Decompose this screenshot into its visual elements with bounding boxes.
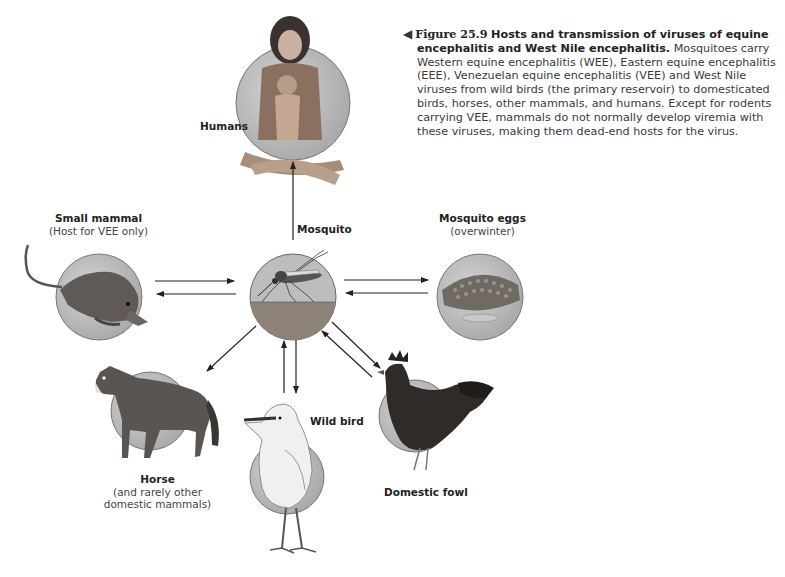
figure-body: Mosquitoes carry Western equine encephal… [417, 42, 776, 138]
humans-illustration [236, 16, 350, 185]
horse-illustration [95, 366, 219, 458]
figure-number: Figure 25.9 [415, 27, 487, 41]
label-small-mammal: Small mammal (Host for VEE only) [36, 212, 161, 237]
label-horse: Horse (and rarely other domestic mammals… [100, 473, 215, 511]
label-wild-bird: Wild bird [310, 415, 364, 428]
arrow-fowl-to-mosquito [322, 331, 372, 377]
arrow-mosquito-to-horse [207, 326, 256, 371]
domestic-fowl-illustration [377, 350, 494, 470]
small-mammal-illustration [26, 245, 148, 340]
figure-caption: ◀Figure 25.9 Hosts and transmission of v… [417, 28, 782, 138]
mosquito-illustration [248, 250, 338, 347]
label-humans: Humans [200, 120, 248, 133]
label-domestic-fowl: Domestic fowl [384, 486, 468, 499]
label-mosquito: Mosquito [297, 223, 352, 236]
label-mosquito-eggs: Mosquito eggs (overwinter) [425, 212, 540, 237]
mosquito-eggs-illustration [437, 254, 523, 340]
caption-pointer-icon: ◀ [403, 27, 412, 41]
arrow-mosquito-to-fowl [332, 322, 380, 368]
